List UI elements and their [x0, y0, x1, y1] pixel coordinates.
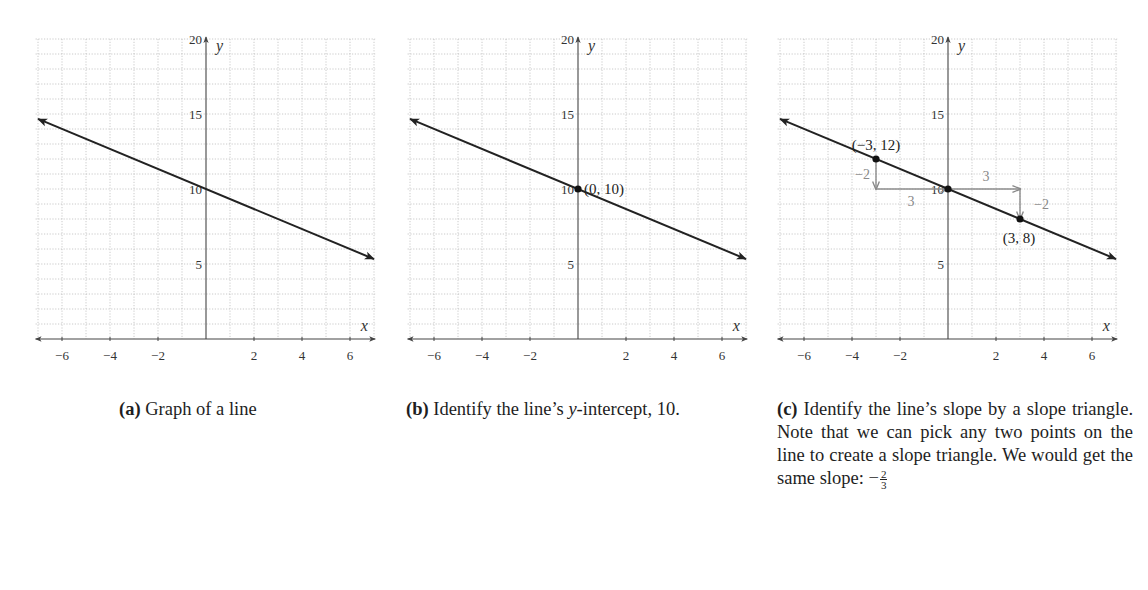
point-label: (0, 10) — [584, 181, 624, 198]
slope-triangle-label: −2 — [855, 167, 870, 182]
graph-a: −6−4−22465101520xy — [36, 32, 376, 363]
x-tick-label: −2 — [523, 348, 537, 363]
x-tick-label: 6 — [347, 348, 354, 363]
y-tick-label: 15 — [189, 107, 202, 122]
x-tick-label: 2 — [623, 348, 630, 363]
caption-b-italic: y — [568, 399, 576, 419]
point-marker — [872, 155, 879, 162]
y-tick-label: 15 — [931, 107, 944, 122]
y-tick-label: 20 — [931, 32, 944, 47]
x-tick-label: 4 — [671, 348, 678, 363]
caption-a-text: Graph of a line — [145, 399, 256, 419]
x-axis-label: x — [360, 317, 368, 334]
graph-c: −6−4−22465101520xy−233−2(−3, 12)(3, 8) — [778, 32, 1118, 363]
x-tick-label: 2 — [251, 348, 258, 363]
x-tick-label: −2 — [893, 348, 907, 363]
y-tick-label: 20 — [561, 32, 574, 47]
graph-b: −6−4−22465101520xy(0, 10) — [408, 32, 748, 363]
slope-denominator: 3 — [880, 480, 888, 490]
caption-b-text-before: Identify the line’s — [433, 399, 568, 419]
caption-a: (a) Graph of a line — [119, 398, 379, 421]
x-tick-label: 4 — [299, 348, 306, 363]
x-tick-label: 2 — [993, 348, 1000, 363]
caption-a-label: (a) — [119, 399, 141, 419]
point-marker — [574, 185, 581, 192]
caption-b-text-after: -intercept, 10. — [577, 399, 680, 419]
x-tick-label: 6 — [719, 348, 726, 363]
caption-c: (c) Identify the line’s slope by a slope… — [777, 398, 1133, 490]
x-axis-label: x — [732, 317, 740, 334]
caption-b: (b) Identify the line’s y-intercept, 10. — [406, 398, 762, 421]
caption-c-text: Identify the line’s slope by a slope tri… — [777, 399, 1133, 488]
slope-triangle-label: 3 — [908, 194, 915, 209]
x-tick-label: −2 — [151, 348, 165, 363]
point-marker — [944, 185, 951, 192]
y-tick-label: 15 — [561, 107, 574, 122]
caption-b-label: (b) — [406, 399, 429, 419]
y-tick-label: 5 — [568, 257, 575, 272]
slope-sign: − — [868, 468, 878, 488]
x-axis-label: x — [1102, 317, 1110, 334]
slope-triangle-label: 3 — [983, 169, 990, 184]
x-tick-label: −6 — [55, 348, 69, 363]
slope-fraction: 23 — [880, 469, 888, 490]
y-axis-label: y — [214, 37, 224, 55]
y-axis-label: y — [586, 37, 596, 55]
y-tick-label: 20 — [189, 32, 202, 47]
point-label: (−3, 12) — [852, 137, 900, 154]
x-tick-label: −4 — [103, 348, 117, 363]
caption-c-label: (c) — [777, 399, 798, 419]
y-tick-label: 5 — [196, 257, 203, 272]
point-marker — [1016, 215, 1023, 222]
x-tick-label: −4 — [475, 348, 489, 363]
x-tick-label: 4 — [1041, 348, 1048, 363]
x-tick-label: 6 — [1089, 348, 1096, 363]
x-tick-label: −6 — [797, 348, 811, 363]
y-axis-label: y — [956, 37, 966, 55]
x-tick-label: −4 — [845, 348, 859, 363]
point-label: (3, 8) — [1003, 230, 1036, 247]
figure-graphs: −6−4−22465101520xy−6−4−22465101520xy(0, … — [0, 0, 1148, 390]
slope-triangle-label: −2 — [1034, 197, 1049, 212]
x-tick-label: −6 — [427, 348, 441, 363]
y-tick-label: 5 — [938, 257, 945, 272]
